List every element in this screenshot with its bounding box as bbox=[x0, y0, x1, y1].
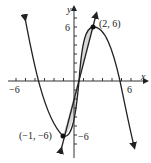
point-label-2-6: (2, 6) bbox=[99, 19, 121, 29]
y-tick-label-neg6: −6 bbox=[78, 132, 89, 142]
point-neg1-neg6 bbox=[61, 134, 66, 139]
secant-line bbox=[61, 15, 96, 150]
point-label-neg1-neg6: (−1, −6) bbox=[19, 131, 52, 141]
y-tick-label-6: 6 bbox=[65, 23, 70, 33]
x-tick-label-neg6: −6 bbox=[9, 85, 20, 95]
y-axis-label: y bbox=[67, 5, 71, 15]
cubic-curve bbox=[25, 18, 134, 146]
graph: y x −6 6 6 −6 (2, 6) (−1, −6) bbox=[0, 0, 151, 163]
x-axis-label: x bbox=[141, 72, 145, 82]
point-2-6 bbox=[91, 25, 96, 30]
x-tick-label-6: 6 bbox=[127, 85, 132, 95]
